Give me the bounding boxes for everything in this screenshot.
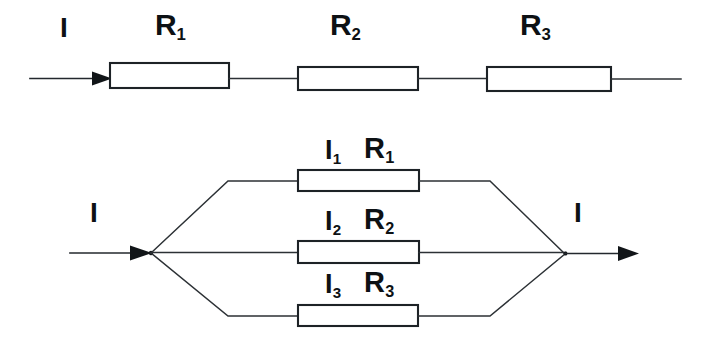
parallel-resistor-3-body: [298, 305, 418, 326]
series-current-label: I: [60, 14, 67, 42]
series-resistor-3-label-main: R: [520, 8, 541, 41]
parallel-branch-2-current-main: I: [325, 206, 333, 236]
series-resistor-3-label-sub: 3: [542, 25, 551, 44]
series-resistor-2-label-main: R: [330, 8, 351, 41]
parallel-resistor-2-body: [298, 241, 419, 263]
series-resistor-3-body: [487, 67, 611, 91]
parallel-branch-1-current-sub: 1: [333, 150, 341, 167]
series-resistor-3-label: R3: [520, 10, 550, 40]
parallel-left-branch-3-wire: [151, 253, 298, 316]
circuit-diagram: I R1 R2 R3 I I I1 R1 I2 R2 I3 R3: [0, 0, 704, 349]
parallel-input-arrow-icon: [130, 246, 152, 261]
series-resistor-1-label-main: R: [155, 8, 176, 41]
series-resistor-2-body: [298, 67, 418, 90]
parallel-branch-3-current-label: I3: [325, 271, 341, 298]
parallel-branch-1-resistor-label: R1: [364, 134, 394, 163]
parallel-resistor-1-body: [298, 170, 419, 191]
parallel-left-branch-1-wire: [151, 181, 298, 253]
parallel-right-branch-1-wire: [419, 181, 565, 254]
parallel-branch-2-resistor-sub: 2: [385, 219, 394, 237]
parallel-branch-2-current-sub: 2: [333, 221, 341, 238]
parallel-branch-3-resistor-main: R: [364, 266, 385, 298]
parallel-branch-3-resistor-label: R3: [364, 268, 394, 297]
series-resistor-1-body: [110, 63, 229, 88]
series-circuit-group: [30, 63, 681, 91]
parallel-branch-2-resistor-main: R: [364, 203, 385, 235]
parallel-input-current-label: I: [90, 199, 97, 227]
circuit-schematic-svg: [0, 0, 704, 349]
parallel-branch-2-current-label: I2: [325, 208, 341, 235]
parallel-branch-2-resistor-label: R2: [364, 205, 394, 234]
parallel-branch-1-resistor-main: R: [364, 132, 385, 164]
parallel-branch-3-resistor-sub: 3: [385, 282, 394, 300]
series-resistor-2-label-sub: 2: [352, 25, 361, 44]
series-resistor-1-label: R1: [155, 10, 185, 40]
parallel-right-branch-3-wire: [418, 254, 565, 316]
parallel-branch-1-current-label: I1: [325, 137, 341, 164]
parallel-branch-3-current-main: I: [325, 269, 333, 299]
parallel-circuit-group: [70, 170, 639, 326]
parallel-output-current-label: I: [574, 199, 581, 227]
series-resistor-2-label: R2: [330, 10, 360, 40]
parallel-branch-3-current-sub: 3: [333, 284, 341, 301]
series-resistor-1-label-sub: 1: [177, 25, 186, 44]
parallel-branch-1-current-main: I: [325, 135, 333, 165]
parallel-output-arrow-icon: [618, 246, 639, 261]
parallel-branch-1-resistor-sub: 1: [385, 148, 394, 166]
